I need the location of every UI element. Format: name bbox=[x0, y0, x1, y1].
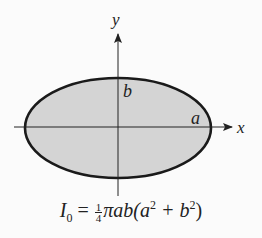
semi-major-label: a bbox=[191, 108, 200, 128]
y-axis-label: y bbox=[110, 10, 120, 29]
formula-lhs: I bbox=[60, 199, 67, 221]
moment-of-inertia-formula: I0 = 14πab(a2 + b2) bbox=[0, 198, 262, 226]
formula-rhs-a: πab(a bbox=[103, 199, 150, 221]
fraction-denominator: 4 bbox=[95, 213, 103, 223]
formula-subscript: 0 bbox=[67, 211, 73, 225]
formula-rhs-b: + b bbox=[156, 199, 190, 221]
formula-equals: = bbox=[78, 199, 89, 221]
fraction-numerator: 1 bbox=[95, 202, 103, 213]
x-axis-label: x bbox=[236, 118, 245, 137]
formula-fraction: 14 bbox=[95, 202, 103, 223]
semi-minor-label: b bbox=[123, 81, 132, 101]
formula-rhs-c: ) bbox=[195, 199, 202, 221]
